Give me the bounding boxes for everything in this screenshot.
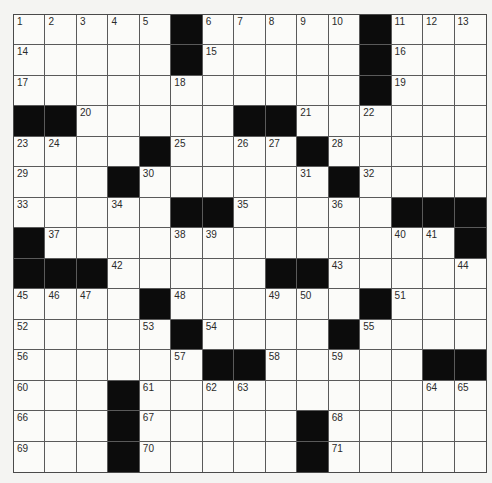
- grid-cell[interactable]: [108, 228, 139, 258]
- grid-cell[interactable]: 64: [423, 381, 454, 411]
- grid-cell[interactable]: [77, 76, 108, 106]
- grid-cell[interactable]: 38: [171, 228, 202, 258]
- grid-cell[interactable]: [203, 137, 234, 167]
- grid-cell[interactable]: [234, 320, 265, 350]
- grid-cell[interactable]: [329, 45, 360, 75]
- grid-cell[interactable]: [455, 106, 486, 136]
- grid-cell[interactable]: 53: [140, 320, 171, 350]
- grid-cell[interactable]: [234, 167, 265, 197]
- grid-cell[interactable]: [77, 350, 108, 380]
- grid-cell[interactable]: 49: [266, 289, 297, 319]
- grid-cell[interactable]: [266, 167, 297, 197]
- grid-cell[interactable]: 58: [266, 350, 297, 380]
- grid-cell[interactable]: [423, 45, 454, 75]
- grid-cell[interactable]: [203, 442, 234, 472]
- grid-cell[interactable]: [45, 350, 76, 380]
- grid-cell[interactable]: 59: [329, 350, 360, 380]
- grid-cell[interactable]: [297, 45, 328, 75]
- grid-cell[interactable]: 46: [45, 289, 76, 319]
- grid-cell[interactable]: [140, 106, 171, 136]
- grid-cell[interactable]: [455, 167, 486, 197]
- grid-cell[interactable]: [392, 259, 423, 289]
- grid-cell[interactable]: 66: [14, 411, 45, 441]
- grid-cell[interactable]: 39: [203, 228, 234, 258]
- grid-cell[interactable]: [329, 228, 360, 258]
- grid-cell[interactable]: [266, 320, 297, 350]
- grid-cell[interactable]: [171, 442, 202, 472]
- grid-cell[interactable]: [297, 350, 328, 380]
- grid-cell[interactable]: [329, 106, 360, 136]
- grid-cell[interactable]: 22: [360, 106, 391, 136]
- grid-cell[interactable]: [203, 289, 234, 319]
- grid-cell[interactable]: 63: [234, 381, 265, 411]
- grid-cell[interactable]: [171, 259, 202, 289]
- grid-cell[interactable]: [392, 320, 423, 350]
- grid-cell[interactable]: 27: [266, 137, 297, 167]
- grid-cell[interactable]: [171, 411, 202, 441]
- grid-cell[interactable]: [171, 381, 202, 411]
- grid-cell[interactable]: [77, 45, 108, 75]
- grid-cell[interactable]: [360, 228, 391, 258]
- grid-cell[interactable]: [140, 198, 171, 228]
- grid-cell[interactable]: [360, 350, 391, 380]
- grid-cell[interactable]: [45, 198, 76, 228]
- grid-cell[interactable]: [360, 381, 391, 411]
- grid-cell[interactable]: 51: [392, 289, 423, 319]
- grid-cell[interactable]: 19: [392, 76, 423, 106]
- grid-cell[interactable]: [108, 289, 139, 319]
- grid-cell[interactable]: [171, 167, 202, 197]
- grid-cell[interactable]: 33: [14, 198, 45, 228]
- grid-cell[interactable]: [203, 106, 234, 136]
- grid-cell[interactable]: [360, 198, 391, 228]
- grid-cell[interactable]: [234, 411, 265, 441]
- grid-cell[interactable]: [423, 167, 454, 197]
- grid-cell[interactable]: 56: [14, 350, 45, 380]
- grid-cell[interactable]: 26: [234, 137, 265, 167]
- grid-cell[interactable]: 42: [108, 259, 139, 289]
- grid-cell[interactable]: [266, 198, 297, 228]
- grid-cell[interactable]: 37: [45, 228, 76, 258]
- grid-cell[interactable]: [392, 411, 423, 441]
- grid-cell[interactable]: [423, 106, 454, 136]
- grid-cell[interactable]: [297, 320, 328, 350]
- grid-cell[interactable]: 52: [14, 320, 45, 350]
- grid-cell[interactable]: 28: [329, 137, 360, 167]
- grid-cell[interactable]: [140, 350, 171, 380]
- grid-cell[interactable]: [392, 442, 423, 472]
- grid-cell[interactable]: [140, 45, 171, 75]
- grid-cell[interactable]: [45, 411, 76, 441]
- grid-cell[interactable]: [423, 411, 454, 441]
- grid-cell[interactable]: [203, 167, 234, 197]
- grid-cell[interactable]: [108, 76, 139, 106]
- grid-cell[interactable]: 68: [329, 411, 360, 441]
- grid-cell[interactable]: 25: [171, 137, 202, 167]
- grid-cell[interactable]: 21: [297, 106, 328, 136]
- grid-cell[interactable]: 2: [45, 15, 76, 45]
- grid-cell[interactable]: [77, 381, 108, 411]
- grid-cell[interactable]: 57: [171, 350, 202, 380]
- grid-cell[interactable]: [140, 228, 171, 258]
- grid-cell[interactable]: [360, 411, 391, 441]
- grid-cell[interactable]: [297, 76, 328, 106]
- grid-cell[interactable]: [455, 442, 486, 472]
- grid-cell[interactable]: 31: [297, 167, 328, 197]
- grid-cell[interactable]: [77, 137, 108, 167]
- grid-cell[interactable]: 4: [108, 15, 139, 45]
- grid-cell[interactable]: 71: [329, 442, 360, 472]
- grid-cell[interactable]: 30: [140, 167, 171, 197]
- grid-cell[interactable]: [108, 137, 139, 167]
- grid-cell[interactable]: [423, 76, 454, 106]
- grid-cell[interactable]: [455, 411, 486, 441]
- grid-cell[interactable]: [77, 228, 108, 258]
- grid-cell[interactable]: 1: [14, 15, 45, 45]
- grid-cell[interactable]: 41: [423, 228, 454, 258]
- grid-cell[interactable]: 10: [329, 15, 360, 45]
- grid-cell[interactable]: [108, 45, 139, 75]
- grid-cell[interactable]: 43: [329, 259, 360, 289]
- grid-cell[interactable]: 12: [423, 15, 454, 45]
- grid-cell[interactable]: 18: [171, 76, 202, 106]
- grid-cell[interactable]: 70: [140, 442, 171, 472]
- grid-cell[interactable]: [45, 45, 76, 75]
- grid-cell[interactable]: 44: [455, 259, 486, 289]
- grid-cell[interactable]: 6: [203, 15, 234, 45]
